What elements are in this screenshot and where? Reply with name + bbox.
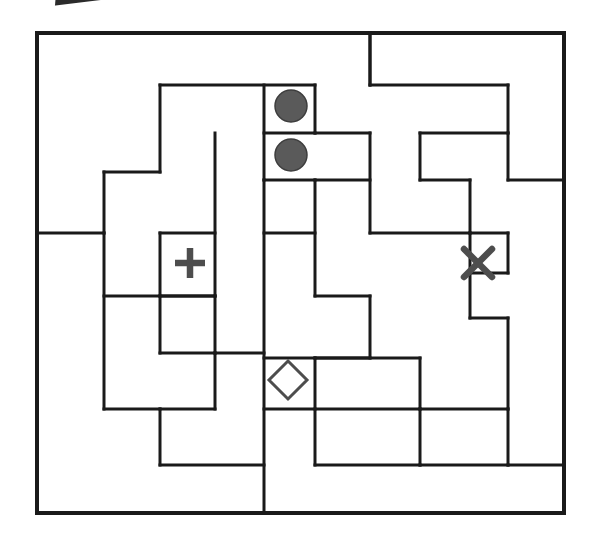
- diamond-mark-icon[interactable]: [269, 361, 307, 399]
- plus-mark-icon[interactable]: [175, 248, 205, 278]
- circle-bottom-icon[interactable]: [275, 139, 307, 171]
- circle-top-icon[interactable]: [275, 90, 307, 122]
- puzzle-grid[interactable]: [0, 0, 600, 548]
- puzzle-page: Region-division puzzle grid: [0, 0, 600, 548]
